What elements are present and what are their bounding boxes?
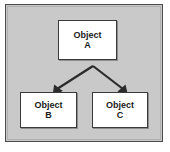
node-object-c-label-line2: C (117, 110, 124, 120)
node-object-a-label-line2: A (84, 40, 91, 50)
node-object-b-label-line1: Object (34, 100, 62, 110)
node-object-b[interactable]: Object B (20, 92, 77, 128)
node-object-c[interactable]: Object C (92, 92, 148, 128)
node-object-b-label-line2: B (45, 110, 52, 120)
node-object-a-label-line1: Object (73, 30, 101, 40)
edge-a-to-c-line (93, 66, 123, 89)
node-object-a[interactable]: Object A (58, 20, 117, 60)
node-object-c-label-line1: Object (106, 100, 134, 110)
edge-a-to-b-line (57, 66, 93, 89)
diagram-canvas: Object A Object B Object C (0, 0, 170, 152)
